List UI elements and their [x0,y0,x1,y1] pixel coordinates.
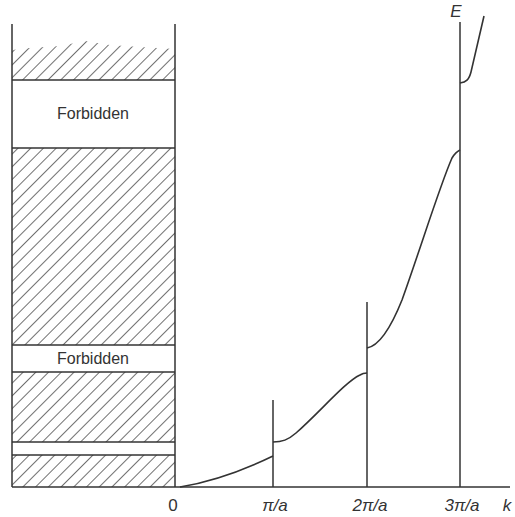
forbidden-label-lower: Forbidden [57,350,129,367]
forbidden-label-upper: Forbidden [57,105,129,122]
band-1-curve [180,456,273,487]
allowed-band-2 [12,148,175,345]
tick-label-pi-a: π/a [262,496,288,515]
dispersion-curve [180,16,484,487]
allowed-band-top [12,41,175,80]
tick-label-0: 0 [168,496,177,515]
band-4-curve [460,16,484,83]
allowed-band-3 [12,372,175,442]
band-2-curve [273,373,367,442]
x-axis-label: k [503,496,513,515]
band-diagram: Forbidden Forbidden E k 0 π/a 2π/a 3π/a [0,0,515,517]
band-3-curve [367,150,460,348]
tick-label-2pi-a: 2π/a [351,496,387,515]
y-axis-label: E [450,2,462,21]
allowed-band-4 [12,455,175,487]
tick-label-3pi-a: 3π/a [444,496,479,515]
